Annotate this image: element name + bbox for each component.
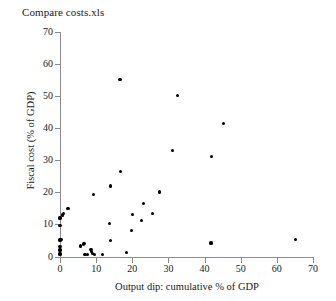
data-point <box>131 213 134 216</box>
data-point <box>92 193 95 196</box>
data-point <box>151 212 154 215</box>
data-point <box>176 94 179 97</box>
data-point <box>209 241 212 244</box>
x-tick-label: 70 <box>298 264 328 274</box>
y-tick-mark <box>55 96 60 97</box>
data-point <box>109 184 112 187</box>
x-tick-label: 0 <box>45 264 75 274</box>
x-tick-label: 20 <box>117 264 147 274</box>
x-tick-label: 10 <box>81 264 111 274</box>
plot-area: 010203040506070 010203040506070 <box>0 0 336 301</box>
data-point <box>130 229 133 232</box>
x-tick-label: 40 <box>190 264 220 274</box>
data-point <box>125 251 128 254</box>
data-point <box>210 155 213 158</box>
data-point <box>86 253 89 256</box>
x-tick-label: 50 <box>226 264 256 274</box>
y-tick-mark <box>55 32 60 33</box>
y-tick-mark <box>55 160 60 161</box>
data-point <box>109 239 112 242</box>
x-tick-label: 60 <box>262 264 292 274</box>
data-point <box>294 238 297 241</box>
data-point <box>59 238 62 241</box>
data-point <box>142 202 145 205</box>
y-axis-title: Fiscal cost (% of GDP) <box>25 31 36 251</box>
data-point <box>101 253 104 256</box>
x-tick-label: 30 <box>153 264 183 274</box>
data-point <box>58 252 61 255</box>
data-point <box>119 170 122 173</box>
data-point <box>222 122 225 125</box>
x-axis-line <box>60 257 314 258</box>
data-point <box>66 207 69 210</box>
y-tick-mark <box>55 64 60 65</box>
data-point <box>108 222 111 225</box>
x-axis-title: Output dip: cumulative % of GDP <box>59 281 315 292</box>
data-point <box>158 190 161 193</box>
data-point <box>171 149 174 152</box>
scatter-chart-figure: Compare costs.xls 010203040506070 010203… <box>0 0 336 301</box>
data-point <box>140 219 143 222</box>
data-point <box>62 212 65 215</box>
data-point <box>83 242 86 245</box>
data-point <box>58 248 61 251</box>
data-point <box>118 78 121 81</box>
y-tick-label: 0 <box>13 252 53 262</box>
y-tick-mark <box>55 128 60 129</box>
y-tick-mark <box>55 192 60 193</box>
data-point <box>58 224 61 227</box>
